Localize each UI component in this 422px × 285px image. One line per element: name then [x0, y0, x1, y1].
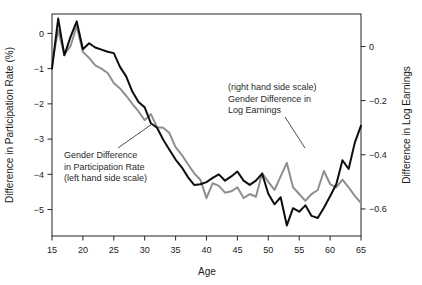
x-tick-label: 20	[78, 245, 88, 255]
y-left-tick-label: −5	[34, 205, 44, 215]
chart-background	[0, 0, 422, 285]
x-tick-label: 30	[140, 245, 150, 255]
y-right-tick-label: −0.2	[369, 96, 387, 106]
x-tick-label: 55	[294, 245, 304, 255]
annotation-line: (left hand side scale)	[64, 173, 147, 183]
annotation-line: Log Earnings	[228, 105, 282, 115]
y-left-tick-label: 0	[39, 29, 44, 39]
y-right-tick-label: −0.6	[369, 204, 387, 214]
x-tick-label: 25	[109, 245, 119, 255]
y-left-tick-label: −1	[34, 64, 44, 74]
annotation-line: Gender Difference	[64, 150, 137, 160]
participation-annotation: Gender Differencein Participation Rate(l…	[64, 150, 147, 183]
x-tick-label: 50	[263, 245, 273, 255]
y-left-tick-label: −4	[34, 170, 44, 180]
x-tick-label: 35	[171, 245, 181, 255]
y-left-tick-label: −2	[34, 99, 44, 109]
x-tick-label: 60	[325, 245, 335, 255]
x-tick-label: 45	[232, 245, 242, 255]
x-tick-label: 40	[201, 245, 211, 255]
annotation-line: (right hand side scale)	[228, 82, 317, 92]
gender-difference-chart: 1520253035404550556065 0−1−2−3−4−5 0−0.2…	[0, 0, 422, 285]
annotation-line: Gender Difference in	[228, 94, 311, 104]
y-right-tick-label: −0.4	[369, 150, 387, 160]
y-right-tick-label: 0	[369, 42, 374, 52]
x-tick-label: 65	[356, 245, 366, 255]
y-axis-right-title: Difference in Log Earnings	[401, 66, 412, 184]
y-left-tick-label: −3	[34, 134, 44, 144]
x-tick-label: 15	[47, 245, 57, 255]
chart-figure: 1520253035404550556065 0−1−2−3−4−5 0−0.2…	[0, 0, 422, 285]
y-axis-left-title: Difference in Participation Rate (%)	[4, 47, 15, 203]
x-axis-title: Age	[198, 266, 216, 277]
annotation-line: in Participation Rate	[64, 162, 145, 172]
